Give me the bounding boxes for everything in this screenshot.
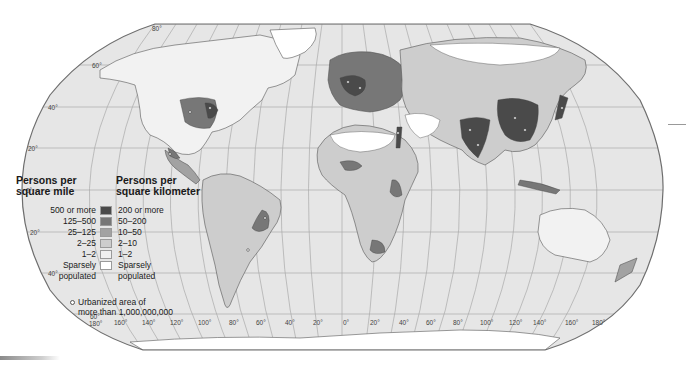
lat-label-80n: 80° <box>152 25 162 32</box>
lon-label: 100° <box>480 319 493 326</box>
legend-mile-value: 1–2 <box>82 249 96 260</box>
lon-label: 20° <box>370 319 380 326</box>
legend-mile-value: 2–25 <box>77 238 96 249</box>
legend-urban-note: Urbanized area of more than 1,000,000,00… <box>78 297 218 317</box>
lon-label: 40° <box>285 319 295 326</box>
legend-heading-km: Persons per square kilometer <box>116 175 236 197</box>
legend-mile-value: 500 or more <box>50 205 96 216</box>
legend-mile-value: Sparsely populated <box>59 260 96 282</box>
urban-dot-icon <box>70 300 75 305</box>
lon-label: 140° <box>533 319 546 326</box>
legend-km-value: 1–2 <box>118 249 132 260</box>
legend-swatch <box>100 217 112 226</box>
page-edge-mark <box>668 124 686 125</box>
legend-km-value: 50–200 <box>118 216 146 227</box>
legend-swatch <box>100 250 112 259</box>
lon-label: 140° <box>142 319 155 326</box>
legend-swatch <box>100 239 112 248</box>
lon-label: 0° <box>343 319 349 326</box>
legend-mile-value: 25–125 <box>68 227 96 238</box>
lon-label: 180° <box>592 319 605 326</box>
legend-km-value: 200 or more <box>118 205 164 216</box>
lon-label: 160° <box>114 319 127 326</box>
legend-swatch <box>100 206 112 215</box>
lon-label: 20° <box>313 319 323 326</box>
lon-label: 40° <box>399 319 409 326</box>
legend-swatch <box>100 228 112 237</box>
lon-label: 160° <box>565 319 578 326</box>
lon-label: 180° <box>89 320 102 327</box>
lon-label: 60° <box>426 319 436 326</box>
lon-label: 120° <box>170 319 183 326</box>
legend-km-value: 2–10 <box>118 238 137 249</box>
legend-row: Sparsely populated Sparsely populated <box>4 260 264 282</box>
legend-km-value: 10–50 <box>118 227 142 238</box>
lon-label: 60° <box>256 319 266 326</box>
legend-mile-value: 125–500 <box>63 216 96 227</box>
europe <box>328 52 407 112</box>
legend-swatch <box>100 261 112 270</box>
legend-km-value: Sparsely populated <box>118 260 155 282</box>
lon-label: 80° <box>453 319 463 326</box>
page-edge-bar <box>0 356 60 360</box>
lat-label-20n: 20° <box>28 145 38 152</box>
legend-heading-mile: Persons per square mile <box>16 175 106 197</box>
lon-label: 100° <box>198 319 211 326</box>
lon-label: 80° <box>229 319 239 326</box>
lat-label-40n: 40° <box>48 104 58 111</box>
lat-label-60n: 60° <box>92 62 102 69</box>
lon-label: 120° <box>509 319 522 326</box>
